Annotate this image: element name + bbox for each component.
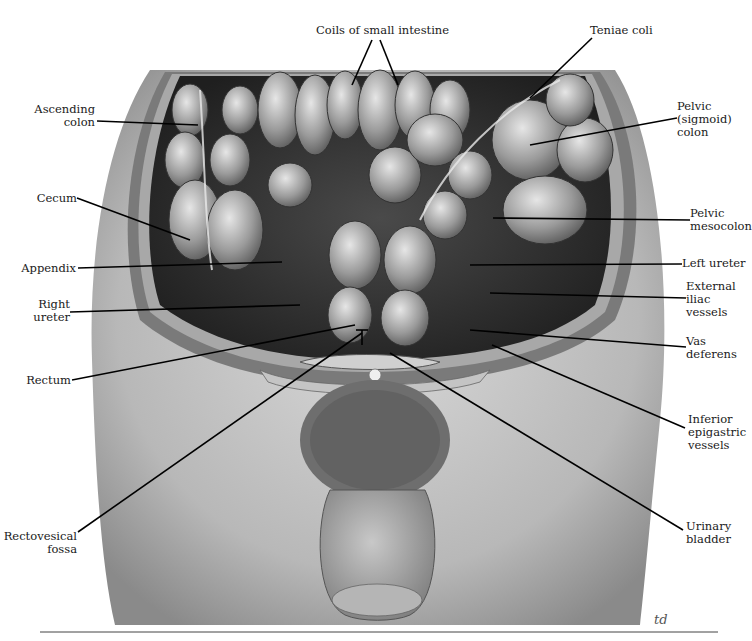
label-cecum: Cecum	[37, 192, 77, 205]
label-coils-of-small-intestine: Coils of small intestine	[316, 24, 449, 37]
label-pelvic-sigmoid-colon: Pelvic(sigmoid)colon	[677, 100, 732, 139]
label-rectum: Rectum	[26, 374, 71, 387]
label-left-ureter: Left ureter	[682, 257, 746, 270]
label-teniae-coli: Teniae coli	[590, 24, 653, 37]
artist-signature: td	[654, 612, 668, 627]
label-inferior-epigastric-vessels: Inferiorepigastricvessels	[688, 413, 746, 452]
label-right-ureter: Rightureter	[33, 298, 70, 324]
label-rectovesical-fossa: Rectovesicalfossa	[4, 530, 77, 556]
label-external-iliac-vessels: Externaliliacvessels	[686, 280, 736, 319]
label-urinary-bladder: Urinarybladder	[686, 520, 731, 546]
label-ascending-colon: Ascendingcolon	[34, 103, 95, 129]
label-vas-deferens: Vasdeferens	[686, 335, 737, 361]
label-appendix: Appendix	[21, 262, 76, 275]
label-pelvic-mesocolon: Pelvicmesocolon	[690, 207, 752, 233]
